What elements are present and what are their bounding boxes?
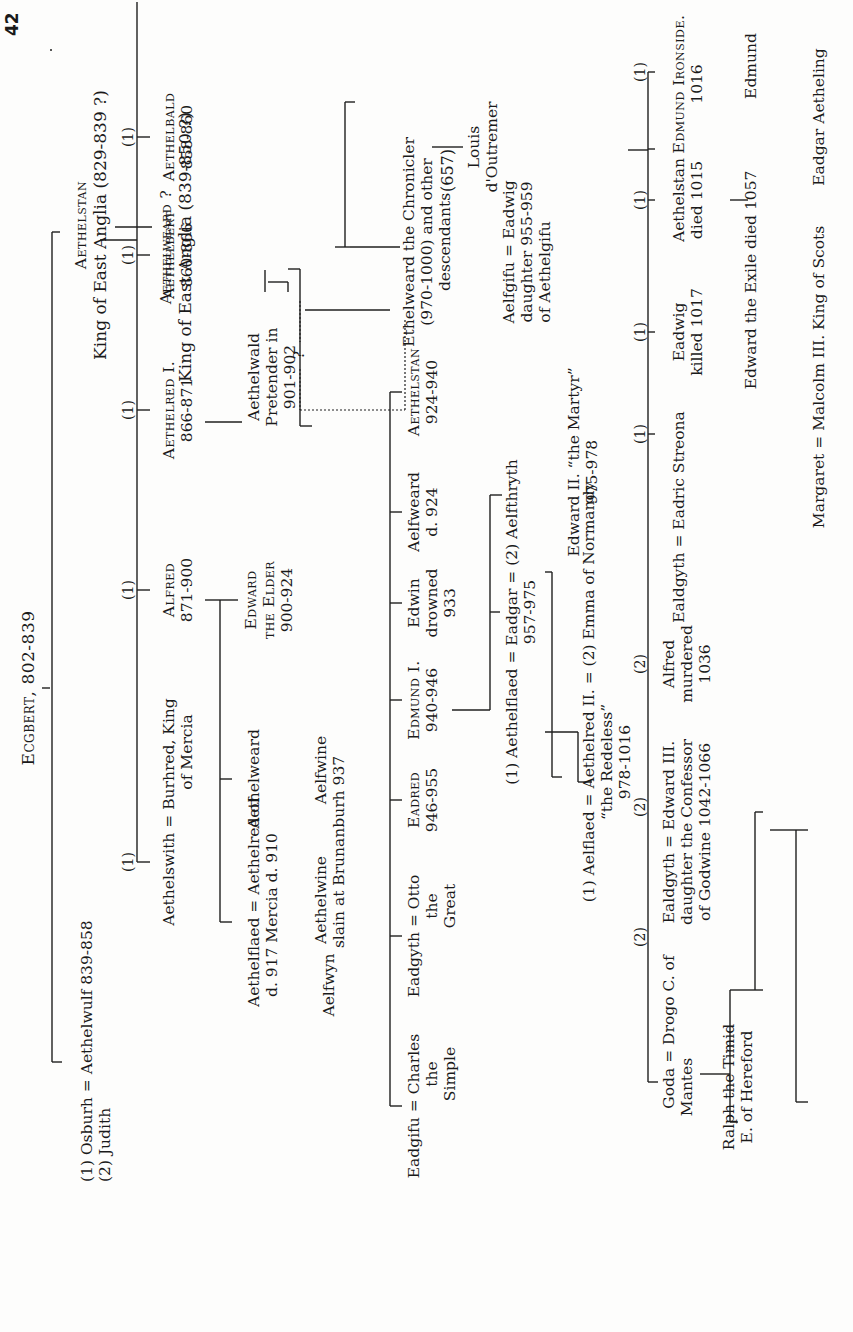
node-eadgifu-charles: Eadgifu = Charles bbox=[405, 1034, 423, 1179]
node-aethelswith-detail: of Mercia bbox=[178, 714, 196, 789]
node-alfred-atheling: Alfred bbox=[660, 640, 678, 688]
node-aethelflaed-dates: d. 917 Mercia d. 910 bbox=[263, 833, 281, 997]
node-edwin-detail: drowned bbox=[423, 568, 441, 637]
node-eadgar-dates: 957-975 bbox=[521, 580, 539, 644]
node-alfred-atheling-detail: murdered bbox=[678, 625, 696, 703]
node-aethelbald-dates: 858-860 bbox=[178, 105, 196, 169]
node-edward-exile: Edward the Exile died 1057 bbox=[742, 171, 760, 390]
uncertain-mark: ? bbox=[290, 351, 308, 359]
node-otto-epithet-2: Great bbox=[441, 884, 459, 928]
node-edwin-year: 933 bbox=[441, 588, 459, 618]
marriage-mark: (2) bbox=[632, 927, 648, 947]
node-goda-drogo: Goda = Drogo C. of bbox=[660, 955, 678, 1108]
marriage-mark: (2) bbox=[632, 797, 648, 817]
node-aethelred-ii: (1) Aelflaed = Aethelred II. = (2) Emma … bbox=[580, 482, 598, 903]
node-louis: Louis bbox=[465, 126, 483, 169]
node-aethelwulf: (1) Osburh = Aethelwulf 839-858 bbox=[78, 920, 96, 1182]
node-drogo-title: Mantes bbox=[678, 1058, 696, 1116]
node-aethelred-i: Aethelred I. bbox=[160, 361, 178, 460]
node-aethelstan-east-anglia-detail: King of East Anglia (829-839 ?) bbox=[90, 90, 110, 360]
marriage-mark: (1) bbox=[632, 322, 648, 342]
node-otto-epithet-1: the bbox=[423, 893, 441, 918]
node-aethelbald: Aethelbald bbox=[160, 93, 178, 182]
node-aethelflaed: Aethelflaed = Aethelred of bbox=[245, 798, 263, 1007]
node-ealdgyth-eadric: Ealdgyth = Eadric Streona bbox=[670, 411, 688, 623]
marriage-mark: (2) bbox=[632, 654, 648, 674]
marriage-mark: (1) bbox=[120, 580, 136, 600]
node-ethelweard-chronicler-detail: (970-1000) and other bbox=[418, 158, 436, 326]
node-aethelwald: Aethelwald bbox=[245, 333, 263, 421]
marriage-mark: (1) bbox=[632, 190, 648, 210]
node-judith: (2) Judith bbox=[96, 1108, 114, 1182]
marriage-mark: (1) bbox=[120, 245, 136, 265]
book-page: Ecgbert, 802-839 Aethelstan King of East… bbox=[0, 0, 853, 1332]
node-edward-confessor: Ealdgyth = Edward III. bbox=[660, 741, 678, 923]
node-edward-elder-dates: 900-924 bbox=[278, 568, 296, 632]
node-edmund-i-dates: 940-946 bbox=[423, 668, 441, 732]
node-eadgar: (1) Aethelflaed = Eadgar = (2) Aelfthryt… bbox=[503, 459, 521, 785]
node-aethelswith: Aethelswith = Burhred, King bbox=[160, 698, 178, 926]
node-ralph-timid: Ralph the Timid bbox=[720, 1024, 738, 1150]
node-eadwig-detail: daughter 955-959 bbox=[518, 181, 536, 322]
node-aethelred-ii-dates: 978-1016 bbox=[616, 725, 634, 799]
node-aethelstan-atheling: Aethelstan bbox=[670, 158, 688, 242]
node-edward-elder: Edward bbox=[242, 571, 260, 630]
node-aethelbert-dates: 860-866 bbox=[178, 223, 196, 287]
node-ralph-title: E. of Hereford bbox=[738, 1031, 756, 1144]
node-aethelred-i-dates: 866-871 bbox=[178, 378, 196, 442]
node-aelfwine-detail: slain at Brunanburh 937 bbox=[330, 756, 348, 948]
node-eadwig-atheling: Eadwig bbox=[670, 303, 688, 362]
node-ethelweard-chronicler-descendants: descendants bbox=[436, 193, 454, 291]
node-aelfwyn: Aelfwyn bbox=[320, 953, 338, 1016]
node-edmund-son: Edmund bbox=[742, 33, 760, 99]
node-charles-epithet-2: Simple bbox=[441, 1047, 459, 1101]
node-aelfgifu-parent: of Aethelgifu bbox=[536, 221, 554, 322]
node-edwin: Edwin bbox=[405, 578, 423, 627]
node-edmund-ironside: Edmund Ironside. bbox=[670, 15, 688, 154]
marriage-mark: (1) bbox=[120, 127, 136, 147]
node-eadred-dates: 946-955 bbox=[423, 768, 441, 832]
node-ethelweard-chronicler: Ethelweard the Chronicler bbox=[400, 137, 418, 347]
node-edmund-ironside-dates: 1016 bbox=[688, 64, 706, 103]
node-aelfwine: Aelfwine bbox=[312, 736, 330, 804]
node-aethelbert: Aethelbert bbox=[160, 211, 178, 299]
node-aethelstan-east-anglia-name: Aethelstan bbox=[72, 181, 90, 269]
node-edward-elder-epithet: the Elder bbox=[260, 561, 278, 639]
node-eadwig-atheling-death: killed 1017 bbox=[688, 288, 706, 376]
node-eadwig: Aelfgifu = Eadwig bbox=[500, 180, 518, 323]
node-alfred: Alfred bbox=[160, 563, 178, 617]
folio-number: 42 bbox=[2, 12, 22, 36]
node-edward-confessor-detail: daughter the Confessor bbox=[678, 739, 696, 925]
marriage-mark: (1) bbox=[120, 852, 136, 872]
node-edward-confessor-dates: of Godwine 1042-1066 bbox=[696, 743, 714, 921]
node-aelfweard: Aelfweard bbox=[405, 472, 423, 552]
node-aethelstan: Aethelstan bbox=[405, 348, 423, 436]
node-edmund-i: Edmund I. bbox=[405, 660, 423, 740]
node-margaret-malcolm: Margaret = Malcolm III. King of Scots bbox=[810, 226, 828, 528]
marriage-mark: (1) bbox=[120, 400, 136, 420]
node-eadred: Eadred bbox=[405, 772, 423, 828]
node-charles-epithet-1: the bbox=[423, 1061, 441, 1086]
node-eadgyth-otto: Eadgyth = Otto bbox=[405, 875, 423, 998]
node-aelfweard-dates: d. 924 bbox=[423, 487, 441, 536]
marriage-mark: (1) bbox=[632, 424, 648, 444]
node-aethelstan-atheling-death: died 1015 bbox=[688, 161, 706, 239]
page-number: (657) bbox=[438, 149, 457, 192]
node-alfred-dates: 871-900 bbox=[178, 558, 196, 622]
node-aethelstan-dates: 924-940 bbox=[423, 360, 441, 424]
node-aethelred-ii-epithet: “the Redeless” bbox=[598, 704, 616, 820]
genealogy-table: Ecgbert, 802-839 Aethelstan King of East… bbox=[0, 0, 853, 1332]
node-alfred-atheling-year: 1036 bbox=[696, 644, 714, 683]
node-aethelwald-detail: Pretender in bbox=[263, 328, 281, 427]
node-ecgbert: Ecgbert, 802-839 bbox=[18, 610, 38, 765]
node-louis-epithet: d'Outremer bbox=[483, 102, 501, 193]
node-aethelwine: Aethelwine bbox=[312, 856, 330, 944]
node-eadgar-aetheling: Eadgar Aetheling bbox=[810, 48, 828, 186]
marriage-mark: (1) bbox=[632, 62, 648, 82]
